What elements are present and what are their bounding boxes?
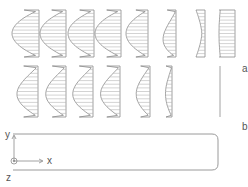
row-label-b: b	[242, 122, 248, 132]
row-label-a: a	[242, 64, 248, 74]
velocity-profile	[219, 10, 235, 57]
velocity-profile	[68, 10, 94, 57]
axis-label-y: y	[5, 130, 10, 140]
velocity-profile	[136, 66, 150, 117]
axis-label-z: z	[6, 173, 11, 183]
profile-row-a	[12, 10, 235, 57]
velocity-profile	[163, 10, 176, 57]
velocity-profile	[101, 66, 120, 117]
profile-row-b	[17, 66, 220, 117]
velocity-profile	[95, 10, 121, 57]
channel-outline	[13, 134, 218, 170]
coordinate-axes-icon	[11, 135, 43, 164]
velocity-profile	[46, 66, 66, 117]
velocity-profile	[196, 10, 205, 57]
velocity-profile	[17, 66, 38, 117]
velocity-profile	[126, 10, 148, 57]
velocity-profile	[73, 66, 93, 117]
velocity-profile	[166, 66, 173, 117]
velocity-profile	[40, 10, 66, 57]
velocity-profile-diagram	[0, 0, 248, 187]
velocity-profile	[12, 10, 39, 57]
axis-label-x: x	[47, 156, 52, 166]
